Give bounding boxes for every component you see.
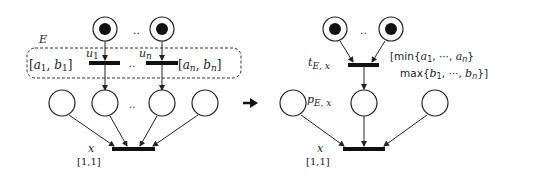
- place: [422, 90, 448, 116]
- marked-place-1: [323, 17, 347, 41]
- token-icon: [329, 23, 341, 35]
- transition-t-ex-label: tE, x: [308, 56, 330, 71]
- place: [49, 90, 75, 116]
- marked-place-n: [150, 17, 174, 41]
- transition-x-label: x: [317, 142, 324, 155]
- place-p-ex-label: pE, x: [307, 93, 331, 108]
- group-label: E: [38, 33, 47, 46]
- transition-u1-label: u1: [86, 47, 99, 61]
- place-p-ex: [351, 90, 377, 116]
- petri-net-diagram: .. E u1 un .. [a1, b1] [an, bn] ..: [0, 0, 560, 181]
- transition-x-interval: [1,1]: [306, 156, 330, 167]
- token-icon: [385, 23, 397, 35]
- marked-place-n: [379, 17, 403, 41]
- transform-arrow-icon: [243, 98, 258, 108]
- ellipsis: ..: [129, 99, 135, 110]
- place: [280, 90, 306, 116]
- place: [149, 90, 175, 116]
- ellipsis: ..: [360, 24, 367, 37]
- interval-max: max{b1, ···, bn}]: [400, 67, 488, 81]
- token-icon: [156, 23, 168, 35]
- place: [92, 90, 118, 116]
- left-net: .. E u1 un .. [a1, b1] [an, bn] ..: [27, 17, 241, 167]
- token-icon: [99, 23, 111, 35]
- transition-x: [343, 147, 385, 151]
- transition-x-interval: [1,1]: [77, 156, 101, 167]
- transition-x-label: x: [88, 142, 95, 155]
- ellipsis: ..: [133, 24, 140, 37]
- transition-x: [112, 147, 155, 151]
- ellipsis: ..: [129, 58, 135, 69]
- interval-un: [an, bn]: [178, 58, 221, 73]
- transition-t-ex: [348, 63, 379, 67]
- transition-u1: [89, 61, 120, 65]
- transition-un: [146, 61, 178, 65]
- interval-min: [min{a1, ···, an}: [390, 50, 474, 64]
- right-net: .. tE, x [min{a1, ···, an} max{b1, ···, …: [280, 17, 488, 167]
- transition-un-label: un: [139, 47, 152, 61]
- marked-place-1: [93, 17, 117, 41]
- interval-u1: [a1, b1]: [29, 58, 72, 73]
- place: [192, 90, 218, 116]
